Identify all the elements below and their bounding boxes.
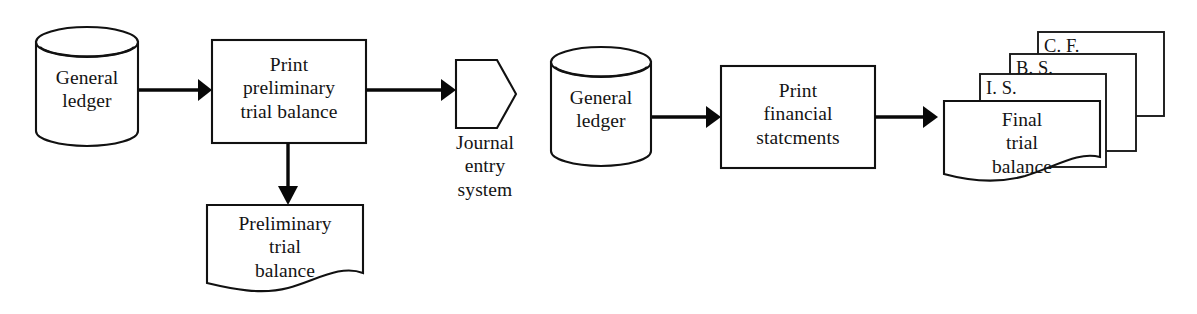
left-general-ledger-cylinder <box>36 27 138 146</box>
arrow-print-to-journal-entry <box>366 79 456 101</box>
final-trial-balance-document <box>944 101 1100 180</box>
right-general-ledger-cylinder <box>551 47 651 166</box>
journal-entry-system-pentagon <box>456 60 516 128</box>
diagram-vector-layer <box>0 0 1197 314</box>
print-financial-statements-box <box>721 66 875 168</box>
arrow-ledger-to-print-financial <box>652 106 721 128</box>
arrow-ledger-to-print-preliminary <box>139 79 212 101</box>
preliminary-trial-balance-document <box>207 205 363 291</box>
print-preliminary-box <box>212 40 366 143</box>
flowchart-diagram: General ledger Print preliminary trial b… <box>0 0 1197 314</box>
arrow-print-to-final-documents <box>875 106 938 128</box>
arrow-print-to-preliminary-document <box>278 143 298 205</box>
